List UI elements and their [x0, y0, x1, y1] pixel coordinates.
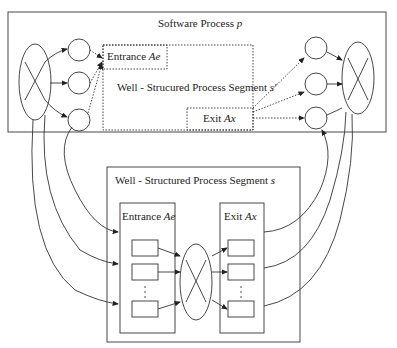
- circle-r3: [305, 107, 327, 129]
- process-segment-diagram: Software Process p Entrance Ae Well - St…: [0, 0, 397, 348]
- exit-box-bottom: [220, 203, 264, 333]
- segment-s-prime-label: Well - Strucured Process Segment s': [117, 81, 276, 93]
- entrance-label-top: Entrance Ae: [107, 50, 160, 62]
- software-process-title: Software Process p: [158, 17, 242, 29]
- entrance-label-bottom: Entrance Ae: [122, 210, 175, 222]
- circle-r2: [305, 73, 327, 95]
- circle-l1: [68, 39, 90, 61]
- left-ellipse: [19, 44, 51, 120]
- exit-label-bottom: Exit Ax: [224, 210, 257, 222]
- entrance-box-bottom: [120, 203, 175, 333]
- segment-s-title: Well - Structured Process Segment s: [115, 174, 275, 186]
- exit-label-top: Exit Ax: [203, 112, 236, 124]
- circle-r1: [305, 37, 327, 59]
- circle-l2: [68, 72, 90, 94]
